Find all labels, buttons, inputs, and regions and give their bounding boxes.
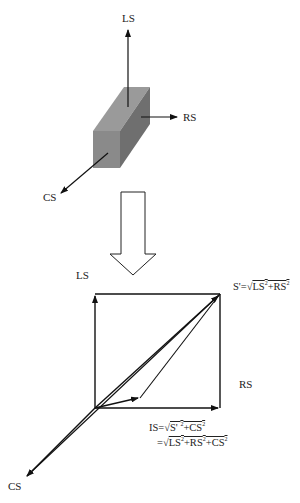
formula-part: S'=√ <box>233 281 252 292</box>
is-formula-line1: IS=√S' 2+CS2 <box>149 421 205 434</box>
formula-power: 2 <box>202 421 205 427</box>
vector-diagram <box>27 294 220 476</box>
ls-label-bottom: LS <box>76 270 89 281</box>
is-vector <box>27 294 220 476</box>
formula-part: +CS <box>206 437 225 448</box>
stress-box <box>93 87 150 168</box>
formula-radicand: LS2+RS2 <box>252 281 289 292</box>
hollow-down-arrow-icon <box>110 192 156 275</box>
formula-part: LS <box>252 281 264 292</box>
formula-part: IS=√ <box>149 422 170 433</box>
formula-part: S' <box>170 422 180 433</box>
formula-radicand: S' 2+CS2 <box>170 422 205 433</box>
formula-power: 2 <box>224 436 227 442</box>
s-prime-formula: S'=√LS2+RS2 <box>233 280 289 293</box>
cs-label-top: CS <box>43 192 56 203</box>
cs-label-bottom: CS <box>8 481 21 492</box>
formula-part: LS <box>169 437 181 448</box>
diagonal-connector <box>140 294 220 398</box>
formula-part: +CS <box>183 422 202 433</box>
formula-part: +RS <box>184 437 203 448</box>
formula-part: +RS <box>268 281 287 292</box>
ls-label-top: LS <box>122 13 135 24</box>
is-formula-line2: =√LS2+RS2+CS2 <box>157 436 227 449</box>
rs-label-bottom: RS <box>239 379 252 390</box>
formula-part: =√ <box>157 437 169 448</box>
cs-axis-arrow <box>61 153 108 193</box>
formula-power: 2 <box>286 280 289 286</box>
rs-label-top: RS <box>183 112 196 123</box>
formula-radicand: LS2+RS2+CS2 <box>169 437 228 448</box>
